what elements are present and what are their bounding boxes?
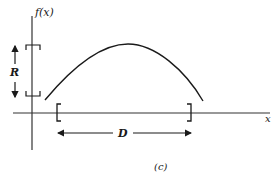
range-bracket [26, 45, 40, 96]
function-curve [45, 44, 203, 101]
y-axis-label: f(x) [34, 6, 54, 19]
range-label: R [9, 66, 19, 79]
figure-caption: (c) [154, 161, 168, 172]
domain-label: D [117, 127, 128, 140]
x-axis-label: x [265, 113, 271, 124]
function-diagram: f(x) x R D (c) [0, 0, 278, 181]
